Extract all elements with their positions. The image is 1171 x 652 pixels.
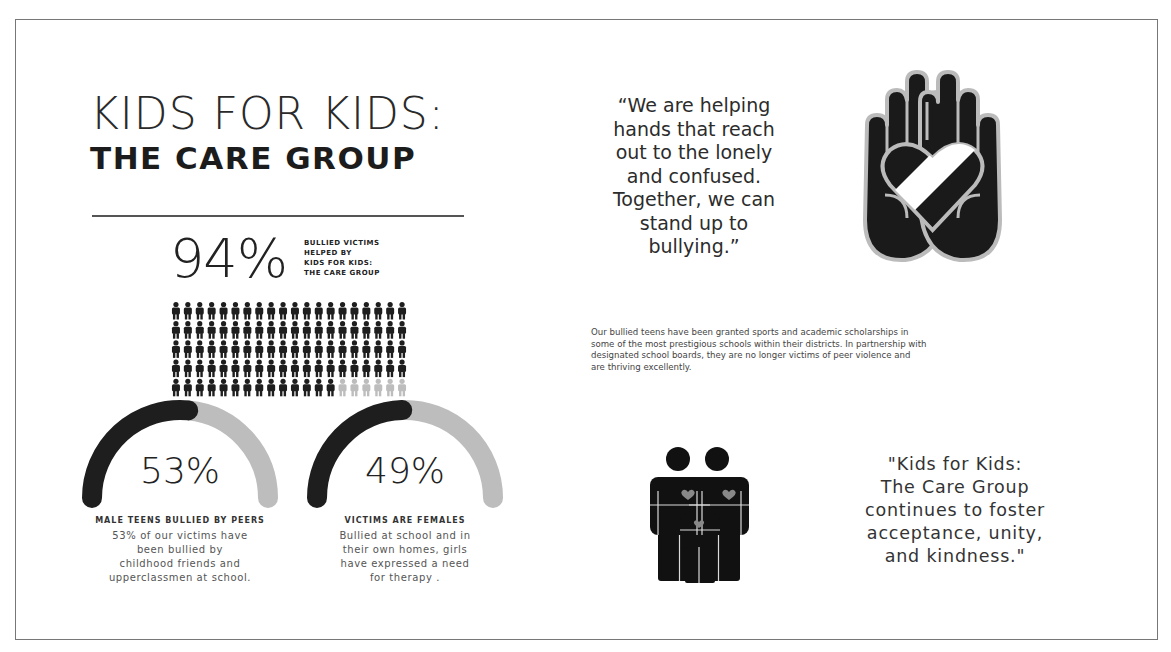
person-icon [220,302,228,320]
person-icon [231,379,239,397]
title-divider [92,215,464,217]
headline-percentage: 94% [170,232,287,286]
person-icon [374,302,382,320]
person-icon [267,340,275,358]
person-icon [291,302,299,320]
person-icon [303,302,311,320]
person-icon [255,379,263,397]
person-icon [220,379,228,397]
gauge-description: Bullied at school and in their own homes… [300,529,510,585]
person-icon [243,321,251,339]
person-icon [172,379,180,397]
person-icon [267,379,275,397]
person-icon [350,302,358,320]
person-icon [374,340,382,358]
person-icon [303,340,311,358]
description-line: Bullied at school and in [300,529,510,543]
person-icon [172,302,180,320]
person-icon [327,321,335,339]
title-line-1: KIDS FOR KIDS: [90,88,445,139]
person-icon [196,360,204,378]
person-icon [303,360,311,378]
person-icon [267,302,275,320]
quote-line: The Care Group [845,476,1065,499]
person-icon [184,360,192,378]
person-icon [220,360,228,378]
person-icon [398,360,406,378]
description-line: childhood friends and [75,557,285,571]
caption-line: HELPED BY [304,248,380,258]
quote-line: bullying.” [578,235,810,259]
person-icon [267,321,275,339]
person-icon [208,321,216,339]
description-line: have expressed a need [300,557,510,571]
person-icon [327,379,335,397]
gauge-percentage: 49% [300,453,510,489]
person-icon [339,340,347,358]
quote-line: continues to foster [845,499,1065,522]
person-icon [386,379,394,397]
person-icon [362,302,370,320]
person-icon [386,321,394,339]
person-icon [374,379,382,397]
person-icon [172,360,180,378]
person-icon [243,302,251,320]
person-icon [279,379,287,397]
paragraph-line: some of the most prestigious schools wit… [591,339,1071,351]
person-icon [315,379,323,397]
person-icon [255,340,263,358]
person-icon [231,321,239,339]
headline-caption: BULLIED VICTIMS HELPED BY KIDS FOR KIDS:… [304,238,380,278]
person-icon [279,340,287,358]
quote-line: out to the lonely [578,141,810,165]
person-icon [350,360,358,378]
gauge-title: VICTIMS ARE FEMALES [300,516,510,525]
person-icon [184,321,192,339]
person-icon [279,321,287,339]
person-icon [172,340,180,358]
person-icon [315,302,323,320]
gauge-percentage: 53% [75,453,285,489]
paragraph-line: designated school boards, they are no lo… [591,350,1071,362]
title-line-2: THE CARE GROUP [90,140,416,176]
person-icon [255,302,263,320]
person-icon [327,340,335,358]
person-icon [279,302,287,320]
person-icon [267,360,275,378]
person-icon [315,360,323,378]
person-icon [243,379,251,397]
person-icon [398,379,406,397]
person-icon [220,340,228,358]
person-icon [315,321,323,339]
description-line: for therapy . [300,571,510,585]
quote-line: and confused. [578,165,810,189]
person-icon [350,340,358,358]
person-icon [386,360,394,378]
gauge-male-teens: 53% MALE TEENS BULLIED BY PEERS 53% of o… [75,398,285,585]
caption-line: THE CARE GROUP [304,268,380,278]
caption-line: KIDS FOR KIDS: [304,258,380,268]
person-icon [339,360,347,378]
person-icon [339,302,347,320]
quote-line: "Kids for Kids: [845,453,1065,476]
person-icon [374,360,382,378]
paragraph-line: are thriving excellently. [591,362,1071,374]
person-icon [362,360,370,378]
person-icon [339,321,347,339]
description-line: their own homes, girls [300,543,510,557]
people-pictogram [170,301,408,397]
person-icon [291,321,299,339]
person-icon [362,340,370,358]
person-icon [327,302,335,320]
person-icon [291,340,299,358]
scholarship-paragraph: Our bullied teens have been granted spor… [591,327,1071,373]
person-icon [196,302,204,320]
quote-line: and kindness." [845,545,1065,568]
person-icon [243,340,251,358]
person-icon [196,340,204,358]
person-icon [243,360,251,378]
person-icon [231,302,239,320]
person-icon [184,340,192,358]
person-icon [231,340,239,358]
description-line: 53% of our victims have [75,529,285,543]
